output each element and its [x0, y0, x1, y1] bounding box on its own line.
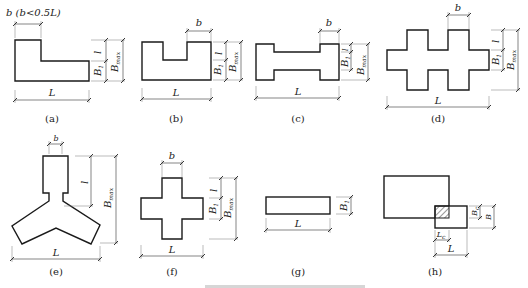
caption-b: (b): [169, 113, 183, 124]
caption-d: (d): [431, 113, 445, 124]
figure-c-i-shape: b l B1 Bmax L (c): [254, 17, 370, 124]
dim-b1: B1: [92, 65, 104, 77]
dim-bc: Bc: [470, 206, 480, 217]
caption-h: (h): [428, 266, 442, 277]
caption-a: (a): [45, 113, 59, 124]
shape-b: [142, 42, 211, 80]
dim-bmax: Bmax: [109, 51, 121, 73]
dim-L: L: [294, 218, 302, 229]
shape-f: [141, 178, 203, 239]
dim-b1: B1: [207, 203, 219, 215]
dim-L: L: [168, 244, 176, 255]
shape-c: [256, 44, 339, 80]
caption-g: (g): [291, 266, 305, 277]
dim-b1: B1: [490, 54, 502, 66]
figure-g-rectangle: B1 L (g): [264, 195, 353, 277]
figure-h-offset-rectangles: Bc B Lc L (h): [384, 176, 496, 277]
dim-L: L: [434, 95, 442, 106]
dim-L: L: [294, 86, 302, 97]
dim-b: b: [53, 134, 58, 143]
dim-bmax: Bmax: [222, 197, 234, 219]
note-b-constraint: b (b<0.5L): [6, 7, 61, 18]
dim-l: l: [208, 189, 219, 192]
caption-c: (c): [291, 113, 305, 124]
dim-b1: B1: [338, 200, 350, 212]
dim-bmax: Bmax: [355, 54, 367, 76]
dim-b1: B1: [212, 64, 224, 76]
figure-e-y-shape: b l Bmax L (e): [10, 134, 118, 277]
figure-d-double-cross: b l B1 Bmax L (d): [385, 2, 520, 124]
building-plan-shapes-diagram: b (b<0.5L) l B1 Bmax L (a): [0, 0, 528, 288]
dim-L: L: [172, 87, 180, 98]
dim-bmax: Bmax: [505, 49, 517, 71]
shape-a: [15, 40, 89, 81]
dim-b: b: [169, 150, 175, 161]
dim-b: b: [196, 17, 202, 28]
caption-e: (e): [49, 266, 63, 277]
dim-b: B: [484, 214, 493, 221]
dim-bmax: Bmax: [102, 187, 114, 209]
overlap-hatched-area: [435, 206, 449, 218]
shape-d: [387, 30, 489, 90]
dim-b1: B1: [339, 56, 351, 68]
dim-l: l: [490, 40, 501, 43]
caption-f: (f): [166, 266, 178, 277]
dim-lc: Lc: [436, 230, 446, 240]
dim-l: l: [341, 48, 350, 51]
dim-L: L: [447, 243, 455, 254]
dim-L: L: [52, 247, 60, 258]
dim-L: L: [48, 87, 56, 98]
dim-b: b: [455, 2, 461, 13]
dim-l: l: [213, 52, 224, 55]
figure-b-u-shape: b l B1 Bmax L (b): [140, 17, 243, 124]
dim-l: l: [79, 181, 90, 184]
figure-a-l-shape: b (b<0.5L) l B1 Bmax L (a): [6, 7, 125, 124]
dim-bmax: Bmax: [227, 51, 239, 73]
figure-f-cross: b l B1 Bmax L (f): [139, 150, 238, 277]
shape-e: [12, 156, 100, 244]
dim-b: b: [326, 17, 332, 28]
dim-l: l: [92, 51, 103, 54]
shape-g: [266, 197, 330, 214]
